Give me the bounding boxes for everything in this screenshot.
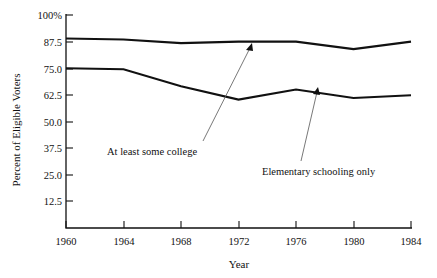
- y-tick-label: 12.5: [44, 196, 62, 207]
- x-tick-label: 1972: [229, 236, 250, 247]
- line-chart: 100% 87.5 75.0 62.5 50.0 37.5 25.0 12.5 …: [0, 0, 437, 278]
- annotation-college-label: At least some college: [107, 146, 197, 157]
- annotation-leader-college: [203, 43, 253, 141]
- x-tick-label: 1960: [56, 236, 77, 247]
- x-tick-label: 1976: [286, 236, 307, 247]
- arrowhead-icon: [246, 43, 253, 51]
- y-tick-label: 62.5: [44, 90, 62, 101]
- y-tick-label: 50.0: [44, 117, 62, 128]
- series-line-college: [66, 38, 411, 49]
- x-tick-marks: [66, 221, 411, 228]
- y-tick-labels: 100% 87.5 75.0 62.5 50.0 37.5 25.0 12.5: [38, 10, 63, 207]
- y-axis-title: Percent of Eligible Voters: [10, 74, 22, 187]
- y-tick-label: 100%: [38, 10, 63, 21]
- x-tick-label: 1980: [344, 236, 365, 247]
- chart-container: 100% 87.5 75.0 62.5 50.0 37.5 25.0 12.5 …: [0, 0, 437, 278]
- x-tick-label: 1968: [171, 236, 192, 247]
- x-tick-labels: 1960 1964 1968 1972 1976 1980 1984: [56, 236, 423, 247]
- x-tick-label: 1984: [401, 236, 423, 247]
- y-tick-label: 87.5: [44, 37, 62, 48]
- series-line-elementary: [66, 68, 411, 99]
- x-tick-label: 1964: [114, 236, 136, 247]
- arrowhead-icon: [313, 87, 320, 95]
- x-axis-title: Year: [229, 258, 250, 270]
- axis-lines: [66, 14, 412, 228]
- y-tick-label: 75.0: [44, 64, 62, 75]
- y-tick-label: 37.5: [44, 143, 62, 154]
- y-tick-label: 25.0: [44, 170, 62, 181]
- annotation-leader-elementary: [301, 87, 320, 161]
- annotation-elementary-label: Elementary schooling only: [262, 166, 376, 177]
- y-tick-marks: [66, 15, 73, 201]
